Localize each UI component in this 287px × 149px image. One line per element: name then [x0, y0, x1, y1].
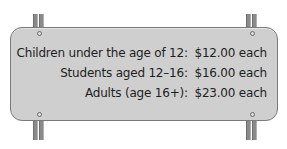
left-post-bottom-a: [33, 121, 38, 140]
price-list: Children under the age of 12: $12.00 eac…: [17, 43, 267, 103]
screw-icon: [250, 31, 255, 36]
price-value: $23.00 each: [194, 86, 267, 100]
price-label: Students aged 12–16:: [60, 66, 188, 80]
screw-icon: [37, 112, 42, 117]
price-line-students: Students aged 12–16: $16.00 each: [17, 63, 267, 83]
price-sign: Children under the age of 12: $12.00 eac…: [10, 27, 278, 121]
screw-icon: [250, 112, 255, 117]
price-value: $16.00 each: [194, 66, 267, 80]
price-label: Children under the age of 12:: [17, 46, 188, 60]
price-line-adults: Adults (age 16+): $23.00 each: [17, 83, 267, 103]
price-label: Adults (age 16+):: [85, 86, 188, 100]
left-post-bottom-b: [39, 121, 44, 140]
price-line-children: Children under the age of 12: $12.00 eac…: [17, 43, 267, 63]
screw-icon: [37, 31, 42, 36]
price-value: $12.00 each: [194, 46, 267, 60]
right-post-bottom-b: [252, 121, 257, 140]
right-post-bottom-a: [246, 121, 251, 140]
